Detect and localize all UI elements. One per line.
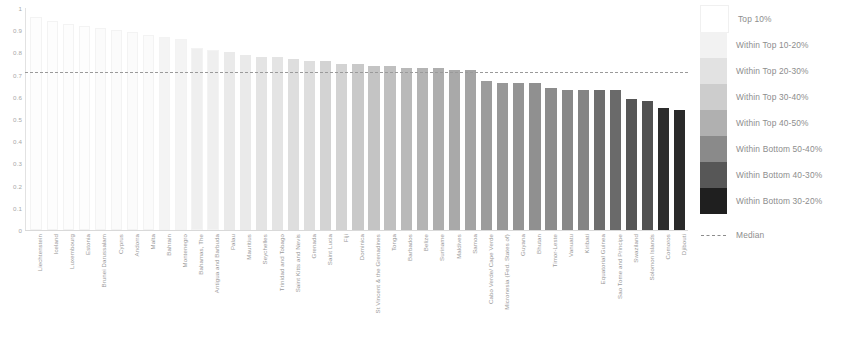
bar-slot[interactable] [221,8,237,230]
bar-slot[interactable] [607,8,623,230]
bar-slot[interactable] [495,8,511,230]
x-axis-label: Bhutan [535,234,542,254]
bar[interactable] [610,90,621,230]
bar[interactable] [63,24,74,230]
legend-item[interactable]: Within Top 40-50% [700,110,809,136]
legend-item[interactable]: Within Bottom 50-40% [700,136,822,162]
bar-slot[interactable] [623,8,639,230]
bar-slot[interactable] [173,8,189,230]
bar[interactable] [401,68,412,230]
bar[interactable] [95,28,106,230]
bar[interactable] [642,101,653,230]
bar-slot[interactable] [253,8,269,230]
bar[interactable] [127,32,138,230]
bar[interactable] [626,99,637,230]
bar-slot[interactable] [656,8,672,230]
y-axis-tick-label: 0 [18,227,22,234]
bar[interactable] [47,21,58,230]
bar-slot[interactable] [543,8,559,230]
legend-item[interactable]: Within Top 20-30% [700,58,809,84]
bar-slot[interactable] [366,8,382,230]
bar[interactable] [529,83,540,230]
legend-item-median[interactable]: Median [700,222,764,248]
bar-slot[interactable] [527,8,543,230]
bar[interactable] [433,68,444,230]
bar-slot[interactable] [141,8,157,230]
bar-slot[interactable] [559,8,575,230]
bar-slot[interactable] [511,8,527,230]
bar[interactable] [368,66,379,230]
bar[interactable] [594,90,605,230]
bar[interactable] [336,64,347,231]
bar[interactable] [465,70,476,230]
bar[interactable] [272,57,283,230]
bar[interactable] [352,64,363,231]
legend-item[interactable]: Within Bottom 40-30% [700,162,822,188]
bar-slot[interactable] [430,8,446,230]
x-axis-label-slot: Maldives [447,232,463,350]
legend-item[interactable]: Within Top 10-20% [700,32,809,58]
bar-slot[interactable] [672,8,688,230]
bar[interactable] [320,61,331,230]
bar[interactable] [497,83,508,230]
bar-slot[interactable] [205,8,221,230]
legend-item[interactable]: Within Top 30-40% [700,84,809,110]
bar-slot[interactable] [591,8,607,230]
bar-slot[interactable] [382,8,398,230]
bar-slot[interactable] [157,8,173,230]
y-axis: 00.10.20.30.40.50.60.70.80.91 [0,8,26,230]
bar[interactable] [159,37,170,230]
bar[interactable] [417,68,428,230]
bar[interactable] [256,57,267,230]
bar-slot[interactable] [318,8,334,230]
bar[interactable] [562,90,573,230]
bar[interactable] [143,35,154,230]
bar-slot[interactable] [44,8,60,230]
legend-item[interactable]: Within Bottom 30-20% [700,188,822,214]
bar-slot[interactable] [237,8,253,230]
bar-slot[interactable] [286,8,302,230]
bar[interactable] [111,30,122,230]
bar[interactable] [191,48,202,230]
bar[interactable] [658,108,669,230]
x-axis-label: Andorra [133,234,140,256]
bar[interactable] [481,81,492,230]
x-axis-label-slot: Trinidad and Tobago [269,232,285,350]
bar[interactable] [224,52,235,230]
bar[interactable] [240,55,251,230]
bar-slot[interactable] [108,8,124,230]
bar-slot[interactable] [446,8,462,230]
bar-slot[interactable] [575,8,591,230]
x-axis-label: Barbados [406,234,413,261]
bar-slot[interactable] [60,8,76,230]
bar-slot[interactable] [479,8,495,230]
bar-slot[interactable] [414,8,430,230]
legend-item[interactable]: Top 10% [700,6,772,32]
bar[interactable] [384,66,395,230]
bar[interactable] [578,90,589,230]
bar[interactable] [513,83,524,230]
bar-slot[interactable] [334,8,350,230]
x-axis-label: Palau [229,234,236,250]
bar-slot[interactable] [189,8,205,230]
bar-slot[interactable] [463,8,479,230]
bar-slot[interactable] [302,8,318,230]
bar[interactable] [175,39,186,230]
bar-slot[interactable] [640,8,656,230]
bar[interactable] [545,88,556,230]
legend-label: Within Top 30-40% [736,92,809,102]
bar-slot[interactable] [125,8,141,230]
bar-slot[interactable] [269,8,285,230]
bar-slot[interactable] [76,8,92,230]
bar-slot[interactable] [398,8,414,230]
bar-slot[interactable] [28,8,44,230]
bar-slot[interactable] [92,8,108,230]
bar[interactable] [288,59,299,230]
bar[interactable] [674,110,685,230]
bar[interactable] [30,17,41,230]
bar-slot[interactable] [350,8,366,230]
bar[interactable] [207,50,218,230]
bar[interactable] [449,70,460,230]
bar[interactable] [79,26,90,230]
bar[interactable] [304,61,315,230]
